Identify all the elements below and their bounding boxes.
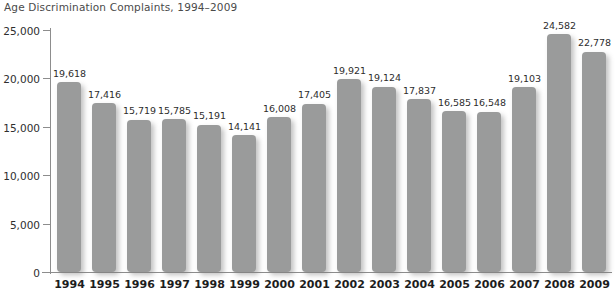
x-axis-label: 1999 [227, 278, 262, 291]
bar [477, 112, 501, 272]
bar [162, 119, 186, 272]
y-axis-tick-label: 20,000 [0, 78, 40, 79]
x-axis-line [42, 272, 612, 273]
bar [232, 135, 256, 272]
y-axis-tick-label-text: 0 [33, 267, 40, 279]
bar-value-label: 17,837 [403, 86, 436, 96]
bar-chart: Age Discrimination Complaints, 1994–2009… [0, 0, 616, 303]
bar [92, 103, 116, 272]
bar-value-label: 15,785 [158, 106, 191, 116]
bar-value-label: 19,124 [368, 73, 401, 83]
y-axis-tick [43, 175, 50, 176]
y-axis-tick-label: 10,000 [0, 175, 40, 176]
x-axis-label: 1997 [157, 278, 192, 291]
bar-value-label: 16,008 [263, 104, 296, 114]
y-axis-tick [43, 127, 50, 128]
bar-slot: 19,124 [367, 0, 402, 272]
x-axis-label: 1995 [87, 278, 122, 291]
y-axis-tick [43, 30, 50, 31]
bar [302, 104, 326, 272]
y-axis-tick [43, 78, 50, 79]
bar-value-label: 22,778 [578, 38, 611, 48]
bar [372, 87, 396, 272]
bar-slot: 19,618 [52, 0, 87, 272]
bar-slot: 17,405 [297, 0, 332, 272]
bar [442, 111, 466, 272]
bar-slot: 17,416 [87, 0, 122, 272]
x-axis-label: 2005 [437, 278, 472, 291]
y-axis-tick-label-text: 10,000 [3, 170, 40, 182]
bar-value-label: 19,921 [333, 66, 366, 76]
bar-slot: 15,719 [122, 0, 157, 272]
bar [337, 79, 361, 272]
bar-slot: 19,103 [507, 0, 542, 272]
bar-series: 19,61817,41615,71915,78515,19114,14116,0… [50, 0, 616, 272]
x-axis-label: 1998 [192, 278, 227, 291]
bar [582, 52, 606, 272]
x-axis-label: 2006 [472, 278, 507, 291]
x-axis-label: 1996 [122, 278, 157, 291]
bar [512, 87, 536, 272]
y-axis-tick-label-text: 15,000 [3, 122, 40, 134]
bar-slot: 19,921 [332, 0, 367, 272]
x-axis-label: 2003 [367, 278, 402, 291]
bar-value-label: 15,719 [123, 106, 156, 116]
bar [547, 34, 571, 272]
x-axis-label: 2004 [402, 278, 437, 291]
bar-slot: 16,548 [472, 0, 507, 272]
x-axis-label: 2007 [507, 278, 542, 291]
y-axis-tick [43, 224, 50, 225]
bar-slot: 14,141 [227, 0, 262, 272]
bar-value-label: 17,405 [298, 90, 331, 100]
y-axis-tick-label-text: 20,000 [3, 73, 40, 85]
y-axis-tick-label-text: 25,000 [3, 25, 40, 37]
x-axis-label: 1994 [52, 278, 87, 291]
bar [267, 117, 291, 272]
bar-value-label: 16,548 [473, 98, 506, 108]
bar-value-label: 24,582 [543, 21, 576, 31]
x-axis-labels: 1994199519961997199819992000200120022003… [50, 278, 616, 298]
bar-value-label: 14,141 [228, 122, 261, 132]
bar-value-label: 19,103 [508, 74, 541, 84]
x-axis-label: 2001 [297, 278, 332, 291]
x-axis-label: 2000 [262, 278, 297, 291]
bar-slot: 16,585 [437, 0, 472, 272]
y-axis-tick-label: 15,000 [0, 127, 40, 128]
x-axis-label: 2009 [577, 278, 612, 291]
bar-slot: 15,191 [192, 0, 227, 272]
x-axis-label: 2002 [332, 278, 367, 291]
bar-slot: 16,008 [262, 0, 297, 272]
x-axis-label: 2008 [542, 278, 577, 291]
bar-slot: 24,582 [542, 0, 577, 272]
bar [127, 120, 151, 272]
y-axis-tick-label: 25,000 [0, 30, 40, 31]
y-axis-tick-label-text: 5,000 [10, 219, 40, 231]
y-axis-tick-label: 5,000 [0, 224, 40, 225]
bar-value-label: 15,191 [193, 111, 226, 121]
y-axis-tick-label: 0 [0, 272, 40, 273]
bar-value-label: 19,618 [53, 69, 86, 79]
y-axis-tick [43, 272, 50, 273]
bar-value-label: 16,585 [438, 98, 471, 108]
bar-slot: 17,837 [402, 0, 437, 272]
bar-slot: 15,785 [157, 0, 192, 272]
bar [197, 125, 221, 272]
bar-slot: 22,778 [577, 0, 612, 272]
bar-value-label: 17,416 [88, 90, 121, 100]
bar [57, 82, 81, 272]
bar [407, 99, 431, 272]
